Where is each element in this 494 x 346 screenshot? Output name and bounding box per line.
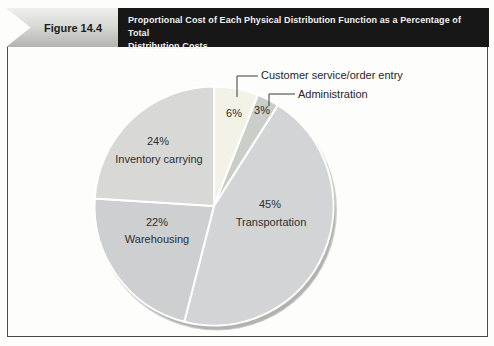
slice-pct-administration: 3% (254, 104, 270, 116)
slice-label-warehousing: Warehousing (125, 233, 189, 245)
figure-page: Proportional Cost of Each Physical Distr… (0, 0, 494, 346)
slice-label-inventory-carrying: Inventory carrying (115, 153, 202, 165)
slice-pct-inventory-carrying: 24% (147, 135, 169, 147)
callout-label-customer-service: Customer service/order entry (261, 69, 403, 81)
pie-chart (0, 0, 494, 346)
callout-label-administration: Administration (298, 88, 368, 100)
slice-pct-customer-service: 6% (226, 107, 242, 119)
slice-pct-warehousing: 22% (146, 216, 168, 228)
pie-slices (95, 87, 334, 326)
slice-pct-transportation: 45% (259, 198, 281, 210)
slice-label-transportation: Transportation (236, 216, 307, 228)
